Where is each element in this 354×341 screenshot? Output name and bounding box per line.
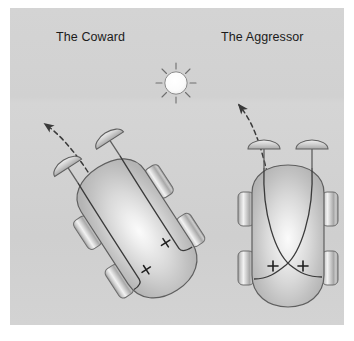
vehicle-label-coward: The Coward xyxy=(56,30,125,44)
braitenberg-vehicles-figure: The Coward The Aggressor xyxy=(0,0,354,341)
diagram-panel xyxy=(10,8,344,325)
vehicle-label-aggressor: The Aggressor xyxy=(221,30,304,44)
